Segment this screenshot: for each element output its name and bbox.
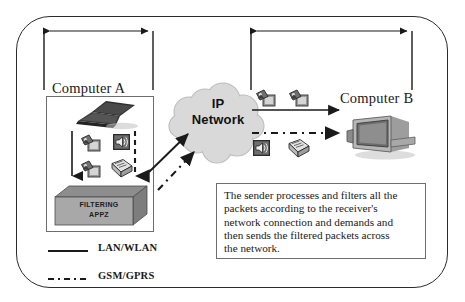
ip-network-label: IP Network <box>181 96 255 128</box>
legend-label-gsm-gprs: GSM/GPRS <box>98 270 154 281</box>
explanation-note-line: the network. <box>224 242 418 255</box>
filtering-appz-line1: FILTERING <box>79 201 118 208</box>
bracket-arrow-right <box>247 28 417 94</box>
solid-line-swatch <box>46 246 90 256</box>
ip-network-line2: Network <box>192 112 245 127</box>
document-file-icon <box>110 158 134 180</box>
filtering-appz-line2: APPZ <box>89 211 109 218</box>
legend-item-lan-wlan: LAN/WLAN <box>46 242 196 258</box>
image-file-icon <box>80 160 102 180</box>
explanation-note-box: The sender processes and filters all the… <box>216 183 426 259</box>
image-file-icon <box>80 134 102 154</box>
a-to-cloud-lan-line <box>149 134 188 172</box>
dash-dot-line-swatch <box>46 274 90 284</box>
a-to-cloud-links <box>148 130 216 194</box>
computer-b-span-bracket <box>247 28 417 94</box>
network-diagram: Computer A <box>0 0 465 302</box>
document-file-icon <box>287 138 311 160</box>
filtering-appz-label: FILTERING APPZ <box>63 200 135 219</box>
explanation-note-line: network connection and demands and <box>224 216 418 229</box>
audio-speaker-icon <box>112 133 132 152</box>
audio-speaker-icon <box>252 139 272 158</box>
ip-network-line1: IP <box>212 96 225 111</box>
legend-label-lan-wlan: LAN/WLAN <box>98 242 157 253</box>
computer-a-label: Computer A <box>52 80 125 97</box>
desktop-computer-icon <box>345 110 419 162</box>
legend: LAN/WLAN GSM/GPRS <box>46 242 196 288</box>
explanation-note-line: packets according to the receiver's <box>224 202 418 215</box>
filtering-appz-box: FILTERING APPZ <box>55 186 147 228</box>
computer-b-label: Computer B <box>340 90 413 107</box>
laptop-icon <box>62 100 140 132</box>
explanation-note-line: The sender processes and filters all the <box>224 189 418 202</box>
explanation-note-line: then sends the filtered packets across <box>224 229 418 242</box>
cloud-to-b-lan-arrow <box>251 106 347 118</box>
legend-item-gsm-gprs: GSM/GPRS <box>46 270 196 286</box>
solid-down-arrow <box>68 130 80 184</box>
